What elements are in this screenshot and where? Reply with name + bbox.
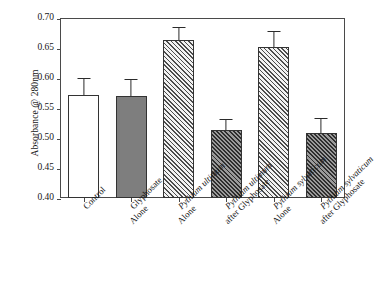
error-bar-pythium-ultimum-after-glyphosate — [226, 119, 227, 130]
y-tick-label: 0.60 — [20, 73, 54, 83]
error-bar-control — [83, 78, 84, 95]
bar-glyphosate-alone[interactable] — [116, 96, 147, 198]
bar-pythium-ultimum-alone[interactable] — [163, 40, 194, 198]
error-bar-cap-pythium-ultimum-after-glyphosate — [220, 119, 233, 120]
bar-group-glyphosate-alone — [116, 18, 147, 198]
y-tick-label: 0.55 — [20, 103, 54, 113]
y-tick-label: 0.45 — [20, 163, 54, 173]
error-bar-cap-pythium-ultimum-alone — [172, 27, 185, 28]
error-bar-pythium-sylvaticum-alone — [273, 31, 274, 47]
error-bar-cap-control — [77, 78, 90, 79]
error-bar-cap-pythium-sylvaticum-alone — [267, 31, 280, 32]
error-bar-cap-pythium-sylvaticum-after-glyphosate — [315, 118, 328, 119]
error-bar-pythium-sylvaticum-after-glyphosate — [321, 118, 322, 132]
x-axis-category-labels: ControlGlyphosateAlonePythium ultimumAlo… — [0, 198, 359, 286]
y-tick-label: 0.50 — [20, 133, 54, 143]
y-tick-label: 0.65 — [20, 43, 54, 53]
error-bar-glyphosate-alone — [131, 79, 132, 96]
error-bar-cap-glyphosate-alone — [125, 79, 138, 80]
y-tick-label: 0.70 — [20, 13, 54, 23]
bar-control[interactable] — [68, 95, 99, 198]
bar-group-pythium-ultimum-alone — [163, 18, 194, 198]
error-bar-pythium-ultimum-alone — [178, 27, 179, 40]
bar-group-control — [68, 18, 99, 198]
